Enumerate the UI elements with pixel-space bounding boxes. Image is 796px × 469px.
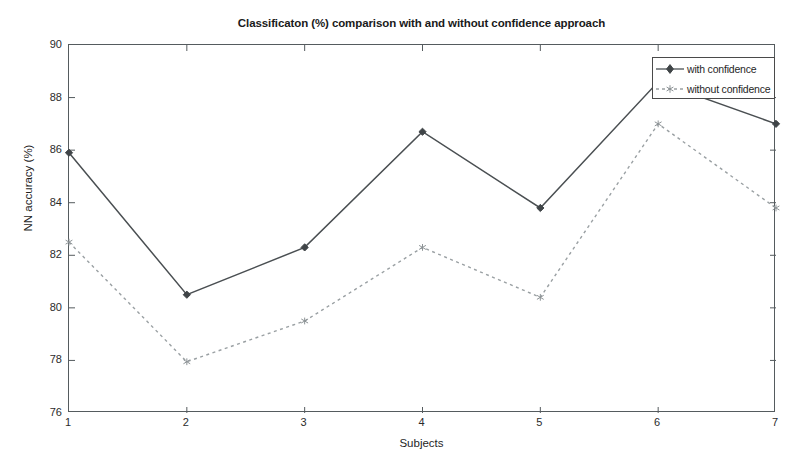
series-with-confidence (65, 78, 779, 298)
legend-entry-without-confidence: without confidence (653, 79, 776, 99)
y-tick-label: 84 (50, 196, 62, 208)
legend-label-1: without confidence (687, 83, 770, 95)
y-tick-label: 86 (50, 143, 62, 155)
chart-title: Classificaton (%) comparison with and wi… (68, 17, 775, 29)
data-point-marker (537, 294, 544, 301)
y-tick-label: 78 (50, 353, 62, 365)
data-point-marker (655, 120, 662, 127)
y-tick-label: 82 (50, 248, 62, 260)
legend-box: with confidence without confidence (652, 57, 775, 99)
y-tick-label: 88 (50, 91, 62, 103)
y-tick-label: 76 (50, 406, 62, 418)
plot-area (68, 44, 775, 412)
x-tick-label: 7 (772, 416, 778, 428)
data-point-marker (772, 120, 779, 127)
x-tick-label: 3 (301, 416, 307, 428)
figure-canvas: Classificaton (%) comparison with and wi… (0, 0, 796, 469)
legend-sample-dotted-star-icon (653, 80, 687, 98)
y-tick-label: 80 (50, 301, 62, 313)
x-tick-label: 4 (418, 416, 424, 428)
x-tick-label: 5 (536, 416, 542, 428)
legend-sample-solid-diamond-icon (653, 60, 687, 78)
legend-label-0: with confidence (687, 63, 756, 75)
x-tick-label: 2 (183, 416, 189, 428)
y-tick-label: 90 (50, 38, 62, 50)
x-axis-label: Subjects (68, 437, 775, 449)
x-axis-tick-labels: 1234567 (68, 416, 775, 434)
y-axis-tick-labels: 7678808284868890 (22, 44, 62, 412)
axis-ticks (69, 45, 776, 413)
x-tick-label: 6 (654, 416, 660, 428)
x-tick-label: 1 (65, 416, 71, 428)
series-without-confidence (66, 120, 780, 365)
series-line (69, 124, 776, 362)
data-point-marker (66, 239, 73, 246)
data-point-marker (419, 244, 426, 251)
series-line (69, 82, 776, 295)
legend-entry-with-confidence: with confidence (653, 59, 776, 79)
data-point-marker (301, 318, 308, 325)
data-series-layer (69, 45, 776, 413)
